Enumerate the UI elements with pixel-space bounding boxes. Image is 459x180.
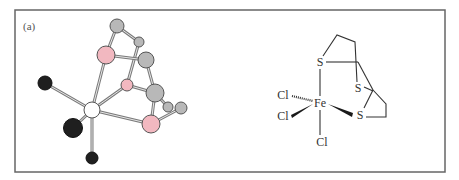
atom-cl1 <box>38 76 52 90</box>
wedge-fe-s-bot <box>328 104 353 117</box>
structural-formula-bonds <box>292 35 386 135</box>
atom-c6 <box>175 102 187 114</box>
atom-c4 <box>146 84 164 102</box>
atom-c3 <box>138 52 154 68</box>
atom-cl2 <box>64 119 83 138</box>
bond-highlight <box>127 42 139 85</box>
atom-s3 <box>142 115 160 133</box>
label-s-top: S <box>317 55 324 69</box>
label-s-bot: S <box>357 108 364 122</box>
panel-label: (a) <box>23 20 36 33</box>
atom-c2 <box>134 37 144 47</box>
bond-junction-s-bot <box>364 90 373 108</box>
figure-canvas: (a) SSSFeClClCl <box>0 0 459 180</box>
label-s-mid: S <box>355 81 362 95</box>
atom-c5 <box>163 102 173 112</box>
wedge-fe-cl-lower <box>291 104 313 118</box>
atom-c1 <box>110 19 124 33</box>
label-cl-lower: Cl <box>277 109 289 123</box>
atom-fe <box>84 102 100 118</box>
bond-ring-upper <box>323 35 357 82</box>
label-cl-bottom: Cl <box>316 135 328 149</box>
label-cl-upper: Cl <box>277 88 289 102</box>
bond-ring-lower <box>366 90 386 117</box>
bond-fe-cl-upper-hashed <box>292 96 313 101</box>
atom-s2 <box>121 79 133 91</box>
label-fe: Fe <box>314 96 326 110</box>
figure-frame <box>15 10 445 172</box>
atom-cl3 <box>86 152 98 164</box>
atom-s1 <box>97 46 115 64</box>
